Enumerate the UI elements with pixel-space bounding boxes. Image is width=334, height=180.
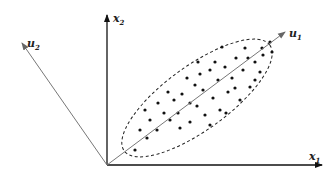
data-point: [156, 101, 159, 104]
u2-label: u2: [27, 37, 40, 52]
data-point: [270, 50, 273, 53]
data-point: [145, 136, 148, 139]
data-point: [138, 128, 141, 131]
data-point: [201, 88, 204, 91]
u1-label: u1: [289, 27, 302, 42]
u2-principal-axis: [22, 43, 107, 165]
data-point: [133, 148, 136, 151]
data-point: [241, 68, 244, 71]
data-point: [220, 45, 223, 48]
data-point: [243, 46, 246, 49]
data-point: [208, 123, 211, 126]
x2-label: x2: [112, 12, 125, 27]
data-point: [238, 98, 241, 101]
data-points: [133, 40, 273, 151]
data-point: [203, 113, 206, 116]
data-point: [180, 92, 183, 95]
data-point: [195, 104, 198, 107]
data-point: [253, 60, 256, 63]
data-point: [148, 118, 151, 121]
data-point: [226, 90, 229, 93]
data-point: [233, 86, 236, 89]
data-point: [162, 111, 165, 114]
data-point: [193, 83, 196, 86]
data-point: [248, 85, 251, 88]
data-point: [261, 53, 264, 56]
data-point: [172, 98, 175, 101]
data-point: [188, 120, 191, 123]
u1-principal-axis: [107, 32, 285, 165]
data-point: [258, 70, 261, 73]
data-point: [208, 68, 211, 71]
data-point: [211, 96, 214, 99]
pca-diagram: x2 x1 u1 u2: [0, 0, 334, 180]
data-point: [218, 108, 221, 111]
data-point: [143, 108, 146, 111]
data-point: [230, 76, 233, 79]
x1-label: x1: [308, 150, 320, 165]
data-point: [198, 72, 201, 75]
data-point: [166, 90, 169, 93]
data-point: [234, 56, 237, 59]
data-point: [213, 60, 216, 63]
data-point: [253, 78, 256, 81]
data-point: [178, 126, 181, 129]
data-point: [196, 60, 199, 63]
data-point: [223, 65, 226, 68]
data-point: [224, 111, 227, 114]
data-point: [185, 76, 188, 79]
